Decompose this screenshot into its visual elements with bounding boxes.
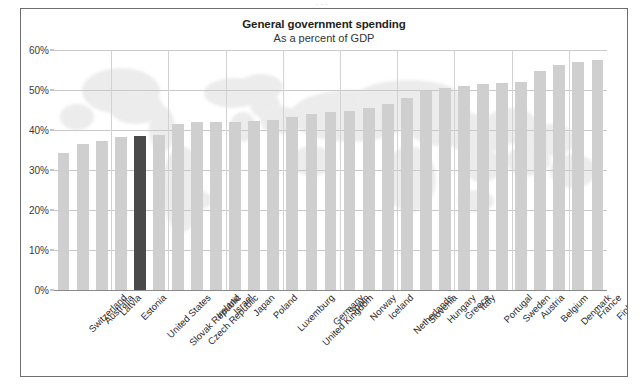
bar[interactable] [325, 112, 337, 290]
bar[interactable] [439, 88, 451, 290]
bar[interactable] [420, 91, 432, 290]
chart-panel: General government spending As a percent… [20, 8, 628, 377]
y-tick-label: 0% [35, 285, 49, 296]
chart-title: General government spending [21, 17, 627, 31]
bar[interactable] [592, 60, 604, 290]
bar[interactable] [77, 144, 89, 290]
y-tick-mark [50, 130, 54, 131]
bar[interactable] [115, 137, 127, 290]
y-tick-label: 30% [29, 165, 49, 176]
bar[interactable] [306, 114, 318, 290]
bar[interactable] [363, 108, 375, 290]
bar[interactable] [267, 120, 279, 290]
bar[interactable] [229, 122, 241, 290]
axis-baseline [54, 290, 607, 291]
y-tick-label: 20% [29, 205, 49, 216]
bar[interactable] [458, 86, 470, 290]
bar[interactable] [210, 122, 222, 290]
bar[interactable] [58, 153, 70, 290]
bar[interactable] [401, 98, 413, 290]
bar[interactable] [96, 141, 108, 290]
bar[interactable] [344, 111, 356, 290]
bar[interactable] [477, 84, 489, 290]
bar[interactable] [191, 122, 203, 290]
y-tick-label: 50% [29, 85, 49, 96]
chart-subtitle: As a percent of GDP [21, 31, 627, 45]
bar[interactable] [248, 121, 260, 290]
bar[interactable] [534, 71, 546, 290]
y-tick-mark [50, 250, 54, 251]
bar[interactable] [382, 104, 394, 290]
bar[interactable] [572, 62, 584, 290]
y-tick-mark [50, 290, 54, 291]
plot-area: 0%10%20%30%40%50%60% [54, 50, 607, 290]
y-tick-label: 40% [29, 125, 49, 136]
x-tick-label: Poland [271, 292, 300, 321]
y-tick-label: 10% [29, 245, 49, 256]
x-axis-labels: SwitzerlandAustraliaLatviaEstoniaUnited … [54, 292, 607, 376]
bar-highlighted[interactable] [134, 136, 146, 290]
clipped-caption-text: · · · [0, 0, 644, 8]
x-tick-label: Estonia [138, 292, 168, 322]
y-tick-mark [50, 210, 54, 211]
bar[interactable] [286, 117, 298, 290]
y-tick-mark [50, 90, 54, 91]
bar[interactable] [515, 82, 527, 290]
bar[interactable] [496, 83, 508, 290]
y-tick-mark [50, 50, 54, 51]
bar[interactable] [153, 135, 165, 290]
y-tick-label: 60% [29, 45, 49, 56]
bar-series [54, 50, 607, 290]
x-tick-label: Luxemburg [295, 292, 336, 333]
bar[interactable] [172, 124, 184, 290]
bar[interactable] [553, 65, 565, 290]
chart-page: · · · General government spending As a p… [0, 0, 644, 385]
chart-title-block: General government spending As a percent… [21, 17, 627, 45]
y-tick-mark [50, 170, 54, 171]
